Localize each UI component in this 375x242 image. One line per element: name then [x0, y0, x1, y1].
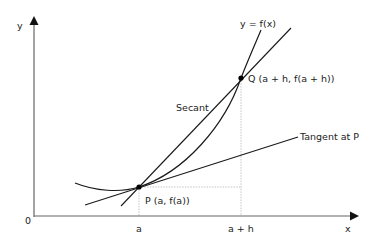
y-axis-arrow-icon [30, 16, 39, 25]
point-p [136, 184, 141, 189]
tick-a-plus-h-label: a + h [228, 223, 254, 234]
x-axis-label: x [345, 223, 351, 234]
y-axis-label: y [17, 20, 23, 31]
secant-tangent-diagram: y x 0 y = f(x) Secant Tangent at P P (a,… [0, 0, 375, 242]
point-q [238, 75, 243, 80]
origin-label: 0 [25, 215, 31, 226]
axes [30, 16, 360, 221]
curve-label: y = f(x) [240, 18, 276, 29]
x-axis-arrow-icon [350, 212, 359, 221]
point-p-label: P (a, f(a)) [145, 195, 190, 206]
secant-label: Secant [176, 102, 209, 113]
secant-line [121, 28, 291, 206]
curve-f [75, 30, 261, 190]
tangent-label: Tangent at P [299, 131, 359, 142]
tick-a-label: a [136, 223, 142, 234]
tangent-line [85, 137, 298, 205]
point-q-label: Q (a + h, f(a + h)) [248, 73, 334, 84]
